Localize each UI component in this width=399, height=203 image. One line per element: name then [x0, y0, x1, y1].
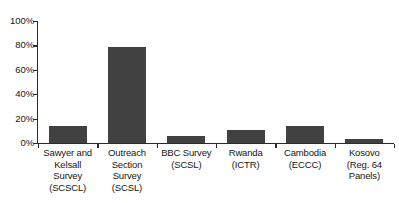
bar[interactable]: [49, 126, 87, 143]
x-axis-category-label-line: Rwanda: [216, 147, 275, 159]
bar[interactable]: [227, 130, 265, 143]
y-axis-tick-mark: [33, 21, 37, 22]
y-axis-tick-mark: [33, 45, 37, 46]
x-axis-category-label: Rwanda(ICTR): [216, 147, 275, 170]
bar[interactable]: [345, 139, 383, 143]
bar-slot: [275, 21, 334, 143]
x-axis-category-label-line: (SCSCL): [38, 182, 97, 194]
x-axis-category-label-line: Cambodia: [275, 147, 334, 159]
x-axis-category-label: Cambodia(ECCC): [275, 147, 334, 170]
y-axis-tick-mark: [33, 94, 37, 95]
x-axis-tick-mark: [275, 144, 276, 148]
y-axis-tick-labels: 0%20%40%60%80%100%: [0, 16, 34, 150]
x-axis-category-label-line: Kelsall: [38, 159, 97, 171]
bar-slot: [157, 21, 216, 143]
x-axis-tick-mark: [394, 144, 395, 148]
bar[interactable]: [108, 47, 146, 143]
x-axis-category-label-line: Panels): [335, 170, 394, 182]
bar-slot: [335, 21, 394, 143]
x-axis-tick-mark: [157, 144, 158, 148]
y-axis-tick-mark: [33, 143, 37, 144]
x-axis-tick-mark: [38, 144, 39, 148]
x-axis-tick-mark: [335, 144, 336, 148]
x-axis-category-label-line: Survey: [38, 170, 97, 182]
x-axis-category-label: Sawyer andKelsallSurvey(SCSCL): [38, 147, 97, 193]
x-axis-category-label: BBC Survey(SCSL): [157, 147, 216, 170]
x-axis-category-label-line: Kosovo: [335, 147, 394, 159]
x-axis-category-label: Kosovo(Reg. 64Panels): [335, 147, 394, 182]
y-axis-tick-label: 40%: [0, 89, 34, 99]
x-axis-category-label-line: (SCSL): [157, 159, 216, 171]
x-axis-category-labels: Sawyer andKelsallSurvey(SCSCL)OutreachSe…: [38, 147, 394, 203]
x-axis-tick-mark: [216, 144, 217, 148]
bar[interactable]: [286, 126, 324, 143]
bar-slot: [38, 21, 97, 143]
x-axis-category-label-line: BBC Survey: [157, 147, 216, 159]
y-axis-tick-mark: [33, 70, 37, 71]
bar-slot: [216, 21, 275, 143]
x-axis-category-label-line: (Reg. 64: [335, 159, 394, 171]
y-axis-tick-label: 80%: [0, 40, 34, 50]
bar-chart: 0%20%40%60%80%100% Sawyer andKelsallSurv…: [0, 0, 399, 203]
x-axis-category-label-line: (ECCC): [275, 159, 334, 171]
y-axis-tick-label: 60%: [0, 65, 34, 75]
y-axis-tick-mark: [33, 119, 37, 120]
y-axis-tick-label: 0%: [0, 138, 34, 148]
y-axis-tick-label: 20%: [0, 114, 34, 124]
bar[interactable]: [167, 136, 205, 143]
y-axis-tick-label: 100%: [0, 16, 34, 26]
x-axis-category-label: OutreachSectionSurvey(SCSL): [97, 147, 156, 193]
x-axis-category-label-line: Survey: [97, 170, 156, 182]
plot-area: [38, 21, 394, 143]
x-axis-category-label-line: (SCSL): [97, 182, 156, 194]
x-axis-category-label-line: Outreach: [97, 147, 156, 159]
x-axis-category-label-line: Section: [97, 159, 156, 171]
bar-slot: [97, 21, 156, 143]
x-axis-tick-mark: [97, 144, 98, 148]
x-axis-category-label-line: (ICTR): [216, 159, 275, 171]
x-axis-category-label-line: Sawyer and: [38, 147, 97, 159]
